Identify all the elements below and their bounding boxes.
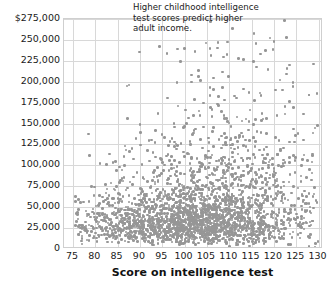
scatter-point xyxy=(255,187,258,190)
scatter-point xyxy=(265,132,268,135)
scatter-point xyxy=(254,145,257,148)
scatter-point xyxy=(255,42,258,45)
scatter-point xyxy=(88,239,91,242)
scatter-point xyxy=(240,231,243,234)
scatter-point xyxy=(308,225,311,228)
scatter-point xyxy=(255,66,258,69)
scatter-point xyxy=(126,85,129,88)
scatter-point xyxy=(300,175,303,178)
scatter-point xyxy=(183,155,186,158)
scatter-point xyxy=(167,231,170,234)
scatter-point xyxy=(226,41,229,44)
scatter-point xyxy=(81,243,84,246)
scatter-point xyxy=(297,187,300,190)
scatter-point xyxy=(237,146,240,149)
scatter-point xyxy=(290,192,293,195)
scatter-point xyxy=(197,242,200,245)
scatter-point xyxy=(303,154,306,157)
scatter-point xyxy=(183,196,186,199)
scatter-point xyxy=(258,168,261,171)
scatter-point xyxy=(268,177,271,180)
scatter-point xyxy=(166,52,169,55)
scatter-point xyxy=(268,237,271,240)
scatter-point xyxy=(148,198,151,201)
scatter-point xyxy=(185,211,188,214)
scatter-point xyxy=(157,220,160,223)
scatter-point xyxy=(168,208,171,211)
scatter-point xyxy=(117,192,120,195)
scatter-point xyxy=(135,211,138,214)
scatter-point xyxy=(198,110,201,113)
scatter-point xyxy=(110,182,113,185)
scatter-point xyxy=(94,218,97,221)
scatter-point xyxy=(277,184,280,187)
scatter-point xyxy=(300,164,303,167)
scatter-point xyxy=(117,241,120,244)
scatter-point xyxy=(217,41,220,44)
scatter-point xyxy=(220,157,223,160)
annotation-line: adult income. xyxy=(133,23,265,34)
scatter-point xyxy=(302,139,305,142)
scatter-point xyxy=(186,152,189,155)
scatter-point xyxy=(152,222,155,225)
scatter-point xyxy=(301,223,304,226)
scatter-point xyxy=(225,136,228,139)
scatter-point xyxy=(201,192,204,195)
scatter-point xyxy=(214,174,217,177)
scatter-point xyxy=(199,114,202,117)
scatter-point xyxy=(192,241,195,244)
scatter-point xyxy=(206,238,209,241)
scatter-point xyxy=(314,127,317,130)
scatter-point xyxy=(258,222,261,225)
scatter-point xyxy=(307,235,310,238)
scatter-point xyxy=(265,117,268,120)
scatter-point xyxy=(252,123,255,126)
scatter-point xyxy=(288,161,291,164)
scatter-point xyxy=(158,45,161,48)
scatter-point xyxy=(168,197,171,200)
scatter-point xyxy=(208,174,211,177)
scatter-point xyxy=(227,166,230,169)
scatter-point xyxy=(223,99,226,102)
scatter-point xyxy=(115,185,118,188)
scatter-point xyxy=(242,242,245,245)
scatter-point xyxy=(171,137,174,140)
scatter-point xyxy=(210,193,213,196)
scatter-point xyxy=(235,177,238,180)
y-axis-tick-label: $275,000 xyxy=(0,13,60,23)
scatter-point xyxy=(294,171,297,174)
scatter-point xyxy=(225,180,228,183)
scatter-point xyxy=(216,192,219,195)
scatter-point xyxy=(216,242,219,245)
scatter-point xyxy=(231,151,234,154)
scatter-point xyxy=(195,184,198,187)
scatter-point xyxy=(264,179,267,182)
scatter-point xyxy=(138,51,141,54)
scatter-point xyxy=(266,153,269,156)
scatter-point xyxy=(230,147,233,150)
scatter-point xyxy=(227,199,230,202)
scatter-point xyxy=(151,192,154,195)
scatter-point xyxy=(139,131,142,134)
scatter-point xyxy=(127,241,130,244)
scatter-point xyxy=(272,204,275,207)
scatter-point xyxy=(111,204,114,207)
scatter-point xyxy=(277,229,280,232)
x-axis-tick-label: 75 xyxy=(66,251,78,261)
scatter-point xyxy=(208,162,211,165)
scatter-point xyxy=(92,208,95,211)
scatter-point xyxy=(94,232,97,235)
scatter-point xyxy=(156,188,159,191)
scatter-point xyxy=(255,181,258,184)
scatter-point xyxy=(88,200,91,203)
scatter-point xyxy=(125,149,128,152)
x-axis-tick-label: 115 xyxy=(241,251,259,261)
scatter-point xyxy=(173,167,176,170)
scatter-point xyxy=(242,58,245,61)
scatter-point xyxy=(167,144,170,147)
scatter-point xyxy=(182,151,185,154)
scatter-point xyxy=(203,240,206,243)
scatter-point xyxy=(301,158,304,161)
scatter-point xyxy=(90,230,93,233)
scatter-point xyxy=(93,235,96,238)
